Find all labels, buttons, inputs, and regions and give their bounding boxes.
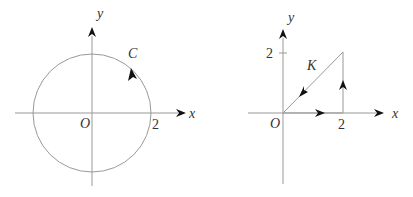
left-figure: y x O 2 C (15, 6, 196, 186)
origin-label: O (270, 116, 280, 131)
x-axis-label: x (188, 106, 196, 121)
x-tick-label: 2 (338, 117, 345, 132)
y-axis-label: y (286, 10, 295, 25)
right-figure: y x O 2 2 K (248, 10, 399, 184)
y-tick-label: 2 (266, 46, 273, 61)
x-axis-label: x (391, 106, 399, 121)
y-axis-arrow-icon (88, 27, 96, 37)
y-axis-label: y (95, 6, 104, 21)
curve-label: C (128, 46, 138, 61)
x-tick-label: 2 (152, 117, 159, 132)
curve-k-diagonal-arrow-icon (299, 86, 308, 97)
origin-label: O (80, 116, 90, 131)
curve-label: K (306, 58, 317, 73)
y-axis-arrow-icon (279, 29, 287, 39)
diagram-canvas: y x O 2 C y x O 2 2 K (0, 0, 413, 197)
